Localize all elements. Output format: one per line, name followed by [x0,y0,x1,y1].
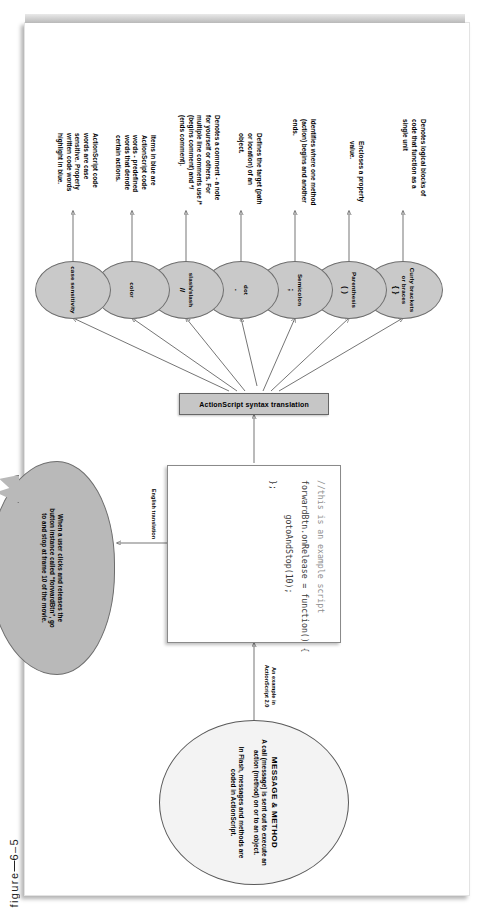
syntax-description-0: Denotes logical blocks of code that func… [401,119,427,207]
syntax-description-2: Identifies where one method (action) beg… [291,119,317,207]
figure-caption: figure6–5 [8,838,20,907]
page-surface: MESSAGE & METHOD A call (message) is sen… [24,22,470,896]
code-sample-box: //this is an example script forwardBtn.o… [167,465,341,643]
english-translation-text: When a user clicks and releases the butt… [40,508,65,628]
syntax-node-name-0: Curly brackets or braces [401,268,416,312]
syntax-node-glyph-1: ( ) [340,272,350,308]
figure-caption-number: 6–5 [8,838,20,861]
hub-label: ActionScript syntax translation [199,401,309,408]
syntax-node-name-5: color [129,282,136,298]
syntax-node-name-2: Semicolon [297,274,304,306]
figure-caption-divider [15,860,16,871]
syntax-description-4: Denotes a comment - a note for yourself … [177,115,221,207]
syntax-description-5: Items in blue are ActionScript code word… [113,135,157,207]
figure-caption-label: figure [8,871,20,907]
message-method-para-1: A call (message) is sent out to execute … [252,737,268,868]
syntax-node-case-sensitivity: case sensitivity [35,261,111,319]
code-line-3: }; [264,480,280,628]
code-line-1: forwardBtn.onRelease = function() { [296,480,312,628]
code-line-0: //this is an example script [312,480,328,628]
example-edge-label: An example in ActionScript 2.0 [262,651,277,721]
syntax-node-name-1: Parenthesis [351,272,358,308]
syntax-node-name-4: slash/slash [188,273,195,307]
syntax-description-6: ActionScript code words are case sensiti… [55,133,99,207]
syntax-node-glyph-3: . [232,285,242,295]
message-and-method-node: MESSAGE & METHOD A call (message) is sen… [159,720,349,885]
syntax-node-glyph-0: { } [390,266,400,314]
syntax-description-3: Defines the target (path or location) of… [237,133,263,207]
syntax-node-name-3: dot [243,285,250,295]
syntax-node-glyph-4: // [177,273,187,307]
actionscript-syntax-translation-hub: ActionScript syntax translation [179,393,329,415]
message-method-para-2: In Flash, messages and methods are coded… [229,737,245,868]
syntax-node-glyph-2: ; [286,274,296,306]
code-line-2: gotoAndStop(10); [280,480,296,628]
translation-edge-label: English translation [150,485,157,543]
syntax-node-name-6: case sensitivity [70,266,77,313]
syntax-description-1: Encloses a property value. [347,141,365,207]
scanned-figure-page: MESSAGE & METHOD A call (message) is sen… [0,0,496,917]
message-method-title: MESSAGE & METHOD [269,757,279,848]
